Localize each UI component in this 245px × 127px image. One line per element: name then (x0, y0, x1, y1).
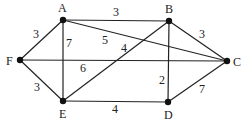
edge-weight-E-D: 4 (112, 102, 118, 116)
edge-weight-A-F: 3 (33, 27, 39, 41)
edge-F-C (20, 60, 227, 61)
node-D (165, 99, 171, 105)
edge-B-C (169, 21, 227, 61)
node-E (60, 98, 66, 104)
edge-weight-E-B: 4 (121, 41, 127, 55)
edge-weight-A-B: 3 (113, 5, 119, 19)
node-label-F: F (6, 54, 13, 68)
node-label-D: D (164, 108, 173, 122)
edge-F-E (20, 60, 63, 101)
node-B (166, 18, 172, 24)
edge-D-C (168, 61, 227, 102)
node-labels: ABCDEF (6, 1, 241, 122)
weighted-graph-diagram: 35376344237 ABCDEF (0, 0, 245, 127)
node-label-E: E (59, 107, 66, 121)
node-label-C: C (233, 55, 241, 69)
graph-edges (20, 20, 227, 102)
edge-weight-F-C: 6 (80, 61, 86, 75)
edge-weight-F-E: 3 (34, 80, 40, 94)
edge-weight-A-C: 5 (102, 33, 108, 47)
edge-weight-B-C: 3 (199, 27, 205, 41)
edge-A-F (20, 20, 63, 60)
edge-A-B (63, 20, 169, 21)
edge-B-D (168, 21, 169, 102)
node-label-A: A (58, 1, 67, 15)
node-C (224, 58, 230, 64)
node-A (60, 17, 66, 23)
node-F (17, 57, 23, 63)
edge-weight-D-C: 7 (199, 82, 205, 96)
edge-weight-A-E: 7 (66, 36, 72, 50)
edge-weight-B-D: 2 (159, 73, 165, 87)
node-label-B: B (165, 2, 173, 16)
